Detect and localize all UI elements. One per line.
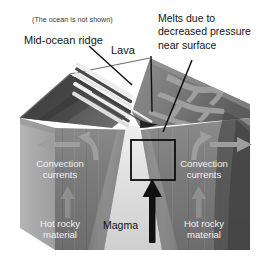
convection-left-label: Convection currents (16, 158, 104, 181)
hot-rocky-left-line1: Hot rocky (16, 218, 104, 229)
hot-rocky-left-label: Hot rocky material (16, 218, 104, 241)
melts-label-line3: near surface (158, 39, 251, 52)
lava-label: Lava (111, 44, 135, 57)
hot-rocky-right-label: Hot rocky material (160, 218, 248, 241)
lava-leader (151, 56, 152, 112)
mid-ocean-ridge-label: Mid-ocean ridge (24, 34, 103, 47)
hot-rocky-left-line2: material (16, 229, 104, 240)
hot-rocky-right-line2: material (160, 229, 248, 240)
melts-label-line2: decreased pressure (158, 25, 251, 38)
melts-label-group: Melts due to decreased pressure near sur… (158, 12, 251, 52)
magma-label: Magma (103, 219, 138, 231)
melts-label-line1: Melts due to (158, 12, 251, 25)
convection-right-line2: currents (160, 169, 248, 180)
convection-right-line1: Convection (160, 158, 248, 169)
figure-canvas: (The ocean is not shown) Mid-ocean ridge… (0, 0, 262, 268)
ocean-not-shown-note: (The ocean is not shown) (32, 16, 113, 24)
convection-left-line2: currents (16, 169, 104, 180)
hot-rocky-right-line1: Hot rocky (160, 218, 248, 229)
convection-left-line1: Convection (16, 158, 104, 169)
convection-right-label: Convection currents (160, 158, 248, 181)
